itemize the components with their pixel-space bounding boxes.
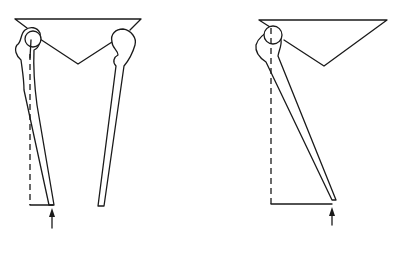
diagram-canvas bbox=[0, 0, 400, 257]
arrowhead-left-icon bbox=[49, 208, 55, 217]
pelvis-femur-diagram bbox=[0, 0, 400, 257]
right-femur bbox=[98, 29, 135, 206]
left-panel bbox=[15, 19, 141, 228]
right-panel bbox=[256, 20, 387, 225]
femur-right-panel bbox=[256, 30, 336, 200]
left-femur bbox=[16, 28, 54, 205]
arrowhead-right-icon bbox=[329, 207, 335, 216]
femoral-head-right-panel bbox=[264, 26, 282, 44]
left-femoral-head bbox=[25, 31, 41, 47]
